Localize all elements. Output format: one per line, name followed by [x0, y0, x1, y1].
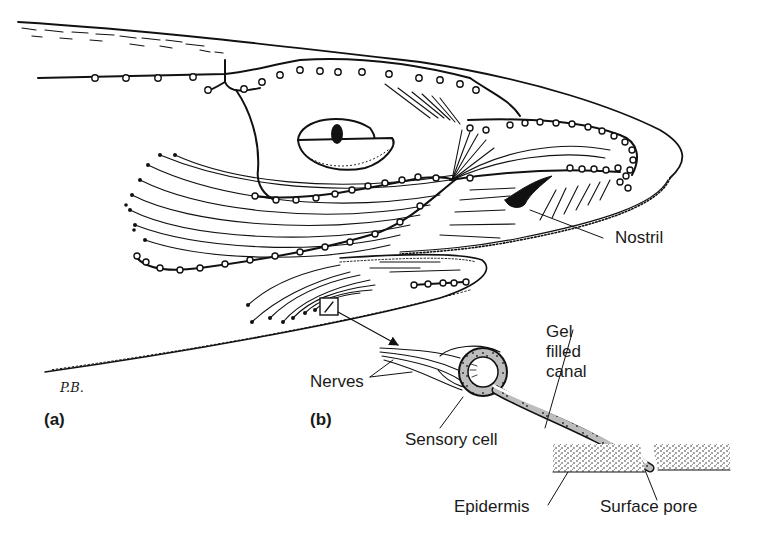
label-sensory-cell: Sensory cell: [405, 430, 498, 450]
artist-signature: P.B.: [60, 380, 84, 395]
ampullary-canals-dorsal: [385, 84, 610, 180]
dorsal-shading: [22, 28, 223, 53]
lower-jaw: [45, 255, 487, 373]
label-gel-line-3: canal: [546, 362, 587, 382]
pupil: [331, 124, 343, 144]
label-gel-line-2: filled: [546, 342, 587, 362]
panel-label-b: (b): [310, 410, 332, 430]
nostril: [505, 176, 552, 207]
ampullary-canals-ventral: [248, 265, 375, 322]
label-surface-pore: Surface pore: [600, 497, 697, 517]
label-gel-line-1: Gel: [546, 322, 587, 342]
panel-label-a: (a): [44, 410, 65, 430]
eye: [298, 119, 393, 170]
label-epidermis: Epidermis: [454, 497, 530, 517]
epidermis-right: [652, 444, 730, 470]
label-gel-filled-canal: Gel filled canal: [546, 322, 587, 382]
shark-head: [18, 22, 682, 372]
shark-ampullae-diagram: [0, 0, 761, 541]
label-nerves: Nerves: [310, 372, 364, 392]
epidermis: [553, 444, 645, 472]
label-nostril: Nostril: [615, 228, 663, 248]
lateral-line-pores: [92, 67, 479, 93]
detail-arrow: [338, 312, 398, 345]
infraorbital-canal: [137, 177, 455, 270]
ampullary-canals-cheek: [130, 155, 455, 257]
